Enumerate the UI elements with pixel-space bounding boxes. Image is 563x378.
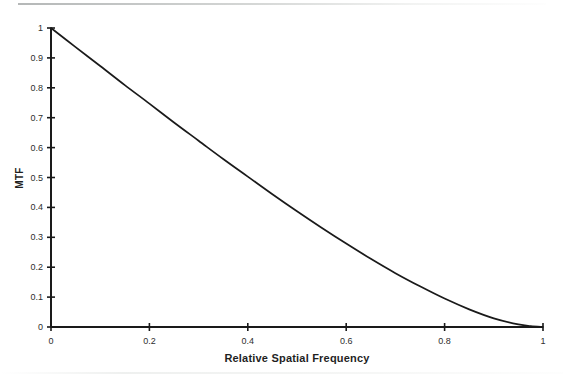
x-tick-label: 0: [48, 336, 53, 346]
y-tick-label: 0.5: [30, 173, 43, 183]
y-tick-label: 0: [38, 322, 43, 332]
y-tick-label: 0.7: [30, 113, 43, 123]
chart-page: 00.10.20.30.40.50.60.70.80.9100.20.40.60…: [0, 0, 563, 378]
axis-lines: [51, 28, 543, 327]
mtf-chart: [0, 0, 563, 378]
x-tick-label: 0.6: [340, 336, 353, 346]
y-tick-label: 0.4: [30, 202, 43, 212]
y-tick-label: 1: [38, 23, 43, 33]
y-tick-label: 0.3: [30, 232, 43, 242]
y-tick-label: 0.9: [30, 53, 43, 63]
y-tick-label: 0.8: [30, 83, 43, 93]
x-tick-label: 1: [540, 336, 545, 346]
y-tick-label: 0.2: [30, 262, 43, 272]
x-axis-title: Relative Spatial Frequency: [224, 352, 369, 364]
y-axis-title: MTF: [14, 167, 25, 188]
y-tick-label: 0.6: [30, 143, 43, 153]
x-tick-label: 0.4: [242, 336, 255, 346]
x-tick-label: 0.2: [143, 336, 156, 346]
x-tick-label: 0.8: [438, 336, 451, 346]
mtf-curve-line: [51, 28, 543, 327]
y-tick-label: 0.1: [30, 292, 43, 302]
